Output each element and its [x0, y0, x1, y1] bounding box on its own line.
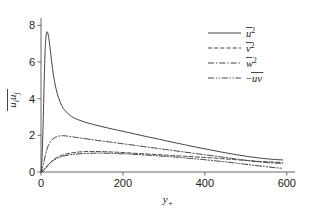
legend-label--uv: −uv [246, 73, 262, 84]
x-tick-label: 600 [278, 177, 296, 189]
reynolds-stress-line-chart: 02468 0200400600 uiuj y+ u2v2w2−uv [0, 0, 317, 214]
y-tick-label: 8 [29, 19, 35, 31]
x-tick-label: 400 [196, 177, 214, 189]
y-tick-label: 2 [29, 129, 35, 141]
x-tick-label: 0 [38, 177, 44, 189]
y-tick-label: 6 [29, 56, 35, 68]
y-tick-label: 4 [29, 93, 35, 105]
x-axis-title-sub: + [168, 199, 173, 208]
y-tick-label: 0 [29, 166, 35, 178]
figure-container: 02468 0200400600 uiuj y+ u2v2w2−uv [0, 0, 317, 214]
x-tick-label: 200 [114, 177, 132, 189]
